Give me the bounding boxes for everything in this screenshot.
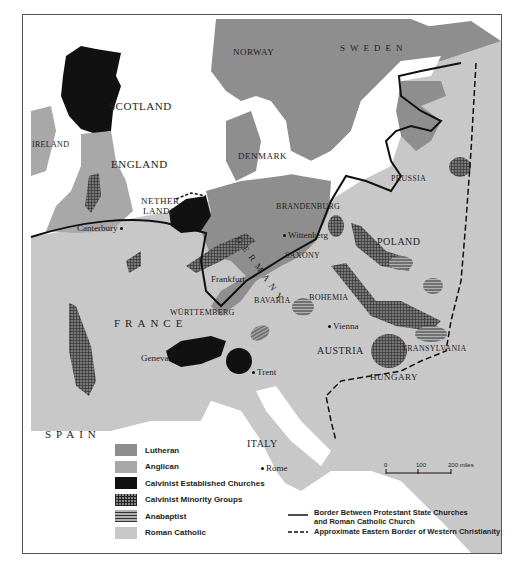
label-saxony: SAXONY <box>285 252 320 260</box>
legend-item-calvinist-established: Calvinist Established Churches <box>115 475 265 492</box>
label-hungary: HUNGARY <box>370 373 418 382</box>
lutheran-swatch-icon <box>115 444 137 456</box>
scale-bar: 0 100 200 miles <box>385 462 475 476</box>
label-prussia: PRUSSIA <box>391 175 426 183</box>
baltic-minority <box>449 157 471 177</box>
city-wittenberg: Wittenberg <box>281 231 328 240</box>
border-legend: Border Between Protestant State Churches… <box>288 508 500 536</box>
label-france: FRANCE <box>114 318 187 329</box>
city-frankfurt: Frankfurt <box>211 275 245 284</box>
label-austria: AUSTRIA <box>317 346 364 356</box>
trent-region <box>226 348 252 374</box>
label-england: ENGLAND <box>111 159 168 170</box>
city-dot-icon <box>283 234 286 237</box>
silesia-minority <box>328 215 344 237</box>
city-dot-icon <box>328 325 331 328</box>
city-vienna: Vienna <box>326 322 358 331</box>
anglican-swatch-icon <box>115 461 137 473</box>
city-trent: Trent <box>250 368 276 377</box>
scotland <box>61 46 121 134</box>
label-bavaria: BAVARIA <box>254 297 290 305</box>
legend-item-anabaptist: Anabaptist <box>115 508 265 525</box>
map-legend: Lutheran Anglican Calvinist Established … <box>115 442 265 541</box>
anabaptist-swatch-icon <box>115 510 137 522</box>
calvinist-minority-swatch-icon <box>115 494 137 506</box>
label-scotland: SCOTLAND <box>109 101 172 112</box>
legend-item-lutheran: Lutheran <box>115 442 265 459</box>
legend-item-anglican: Anglican <box>115 459 265 476</box>
label-sweden: SWEDEN <box>340 44 408 53</box>
city-dot-icon <box>252 371 255 374</box>
city-dot-icon <box>120 227 123 230</box>
denmark <box>226 111 261 181</box>
legend-dashed-border: Approximate Eastern Border of Western Ch… <box>288 527 500 536</box>
label-netherlands-1: NETHER <box>141 197 180 206</box>
label-poland: POLAND <box>377 237 421 247</box>
poland-north-anabaptist <box>389 256 413 270</box>
roman-catholic-swatch-icon <box>115 527 137 539</box>
city-geneva: Geneva <box>141 354 168 363</box>
label-transylvania: TRANSYLVANIA <box>402 345 467 353</box>
label-bohemia: BOHEMIA <box>309 294 348 302</box>
label-netherlands-2: LANDS <box>143 207 176 216</box>
legend-solid-border: Border Between Protestant State Churches… <box>288 508 500 527</box>
scale-line-icon <box>385 469 453 475</box>
legend-item-calvinist-minority: Calvinist Minority Groups <box>115 492 265 509</box>
poland-anabaptist <box>423 278 443 294</box>
label-ireland: IRELAND <box>32 141 69 149</box>
calvinist-established-swatch-icon <box>115 477 137 489</box>
transylvania-anabaptist <box>415 326 447 342</box>
label-spain: SPAIN <box>45 429 101 440</box>
legend-item-roman-catholic: Roman Catholic <box>115 525 265 542</box>
label-denmark: DENMARK <box>238 152 287 161</box>
label-wurttemberg: WÜRTTEMBERG <box>170 309 235 317</box>
city-canterbury: Canterbury <box>77 224 125 233</box>
solid-line-icon <box>288 513 308 517</box>
label-brandenburg: BRANDENBURG <box>276 203 340 211</box>
label-norway: NORWAY <box>233 48 274 57</box>
dashed-line-icon <box>288 530 308 534</box>
